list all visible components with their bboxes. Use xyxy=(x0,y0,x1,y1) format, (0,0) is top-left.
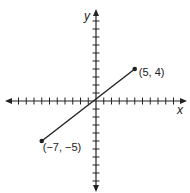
x-axis-left-arrow-icon xyxy=(5,98,12,104)
endpoint-a xyxy=(132,67,137,72)
x-axis-label: x xyxy=(176,103,184,117)
point-a-label: (5, 4) xyxy=(139,66,165,78)
coordinate-plane: y x (5, 4) (−7, −5) xyxy=(0,0,190,193)
line-segment xyxy=(42,69,135,141)
y-axis-down-arrow-icon xyxy=(93,185,99,192)
y-axis-label: y xyxy=(83,9,91,23)
point-b-label: (−7, −5) xyxy=(43,141,82,153)
y-axis-up-arrow-icon xyxy=(93,9,99,16)
